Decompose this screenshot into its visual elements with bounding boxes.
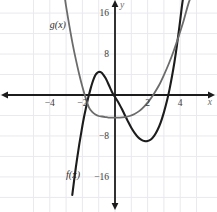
coordinate-graph: −4−224168−8−16 xy f(x)g(x) xyxy=(0,0,217,212)
f-curve-label: f(x) xyxy=(66,169,81,181)
x-tick-label: 4 xyxy=(178,98,183,108)
y-tick-label: 8 xyxy=(104,49,109,59)
g-curve-label: g(x) xyxy=(50,19,67,31)
y-axis-label: y xyxy=(119,0,125,10)
y-tick-label: 16 xyxy=(100,8,110,18)
x-tick-label: 2 xyxy=(145,98,150,108)
graph-canvas: −4−224168−8−16 xy f(x)g(x) xyxy=(0,0,217,212)
x-tick-label: −2 xyxy=(77,98,87,108)
x-axis-label: x xyxy=(207,97,213,107)
y-tick-label: −16 xyxy=(94,172,109,182)
x-tick-label: −4 xyxy=(45,98,55,108)
y-tick-label: −8 xyxy=(99,131,109,141)
